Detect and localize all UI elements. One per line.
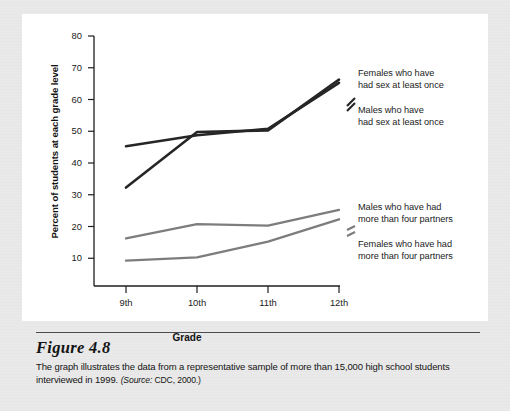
y-axis-ticks — [88, 36, 94, 258]
series-label-females-four-partners: Females who have had more than four part… — [358, 239, 453, 262]
caption-main-text: The graph illustrates the data from a re… — [36, 361, 450, 385]
annotation-pointer-icon-partners — [347, 226, 355, 236]
series-label-males-four-partners: Males who have had more than four partne… — [358, 202, 453, 225]
series-line-males-sex — [126, 80, 339, 188]
x-tick-label-11th: 11th — [248, 297, 288, 308]
caption-source-label: (Source: — [121, 375, 153, 385]
annotation-pointer-icon-sex — [347, 98, 355, 111]
figure-page: 80 70 60 50 40 30 20 10 9th 10th 11th 12… — [0, 0, 510, 411]
y-tick-label-10: 10 — [56, 252, 82, 263]
y-tick-label-70: 70 — [56, 62, 82, 73]
figure-caption-text: The graph illustrates the data from a re… — [36, 361, 482, 386]
figure-caption-block: Figure 4.8 The graph illustrates the dat… — [36, 332, 486, 387]
x-tick-label-12th: 12th — [319, 297, 359, 308]
y-tick-label-60: 60 — [56, 94, 82, 105]
x-tick-label-10th: 10th — [177, 297, 217, 308]
x-tick-label-9th: 9th — [106, 297, 146, 308]
y-tick-label-50: 50 — [56, 125, 82, 136]
y-tick-label-30: 30 — [56, 189, 82, 200]
series-label-males-sex: Males who have had sex at least once — [358, 105, 444, 128]
y-tick-label-80: 80 — [56, 30, 82, 41]
x-axis-ticks — [126, 286, 339, 293]
series-line-males-four-partners — [126, 210, 339, 239]
y-tick-label-40: 40 — [56, 157, 82, 168]
y-tick-label-20: 20 — [56, 221, 82, 232]
y-axis-title: Percent of students at each grade level — [49, 57, 60, 247]
figure-number: Figure 4.8 — [36, 338, 486, 358]
line-chart-canvas — [22, 14, 488, 321]
caption-divider — [36, 332, 480, 333]
caption-source-value: CDC, 2000.) — [152, 375, 201, 385]
series-label-females-sex: Females who have had sex at least once — [358, 68, 444, 91]
chart-plot-area: 80 70 60 50 40 30 20 10 9th 10th 11th 12… — [22, 14, 488, 321]
series-line-females-sex — [126, 83, 339, 147]
